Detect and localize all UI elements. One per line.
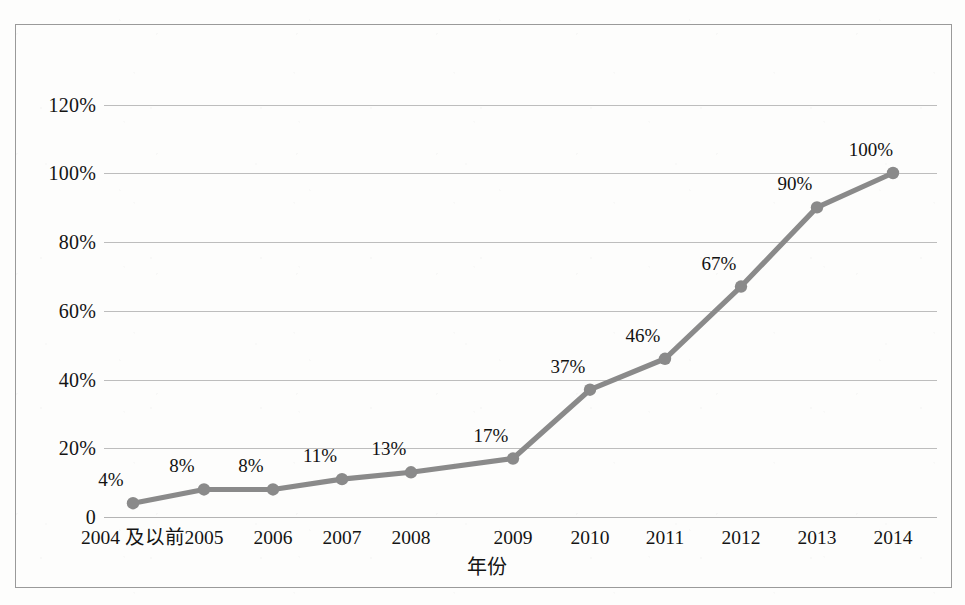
data-point-marker <box>811 201 823 213</box>
data-point-marker <box>735 280 747 292</box>
data-point-marker <box>127 497 139 509</box>
data-point-marker <box>507 452 519 464</box>
data-point-marker <box>887 167 899 179</box>
data-point-label: 11% <box>303 446 337 466</box>
data-point-label: 67% <box>702 254 737 274</box>
data-series-line <box>0 0 965 605</box>
data-point-label: 100% <box>849 140 893 160</box>
data-point-marker <box>659 353 671 365</box>
data-point-label: 4% <box>98 470 123 490</box>
data-point-marker <box>198 483 210 495</box>
data-point-marker <box>584 384 596 396</box>
data-point-label: 37% <box>551 357 586 377</box>
data-point-label: 8% <box>238 456 263 476</box>
data-point-label: 8% <box>169 456 194 476</box>
data-point-marker <box>267 483 279 495</box>
data-point-label: 13% <box>372 439 407 459</box>
scanned-page: 120% 100% 80% 60% 40% 20% 0 2004 及以前 200… <box>0 0 965 605</box>
data-point-marker <box>405 466 417 478</box>
data-point-label: 90% <box>778 174 813 194</box>
data-point-marker <box>336 473 348 485</box>
data-point-label: 17% <box>474 426 509 446</box>
data-point-label: 46% <box>626 326 661 346</box>
